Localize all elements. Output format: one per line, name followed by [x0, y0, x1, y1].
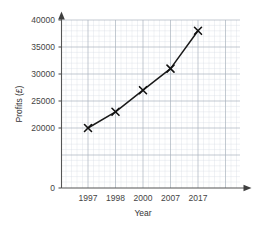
- x-tick-label-1997: 1997: [79, 193, 98, 203]
- x-axis-title: Year: [134, 208, 151, 218]
- y-tick-label-30000: 30000: [31, 69, 55, 79]
- x-tick-label-1998: 1998: [106, 193, 125, 203]
- chart-canvas: 40000 35000 30000 25000 20000 0 1997 199…: [0, 0, 264, 233]
- y-tick-label-0: 0: [50, 183, 55, 193]
- grid-minor-vertical: [66, 20, 237, 188]
- x-tick-label-2017: 2017: [189, 193, 208, 203]
- profits-line-chart: 40000 35000 30000 25000 20000 0 1997 199…: [0, 0, 264, 233]
- y-tick-label-35000: 35000: [31, 42, 55, 52]
- y-tick-label-25000: 25000: [31, 96, 55, 106]
- y-axis-arrowhead: [58, 12, 65, 20]
- x-tick-label-2007: 2007: [161, 193, 180, 203]
- y-axis-title: Profits (£): [14, 85, 24, 122]
- y-tick-label-20000: 20000: [31, 123, 55, 133]
- x-axis: [62, 185, 252, 192]
- y-axis: [58, 12, 65, 189]
- grid-major-vertical: [88, 20, 226, 188]
- y-tick-label-40000: 40000: [31, 15, 55, 25]
- x-axis-arrowhead: [244, 185, 252, 192]
- x-tick-label-2000: 2000: [134, 193, 153, 203]
